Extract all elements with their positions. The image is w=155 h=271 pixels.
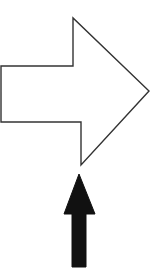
solid-up-arrow-icon <box>64 174 95 267</box>
diagram-canvas <box>0 0 155 271</box>
outlined-right-arrow-icon <box>1 18 149 165</box>
